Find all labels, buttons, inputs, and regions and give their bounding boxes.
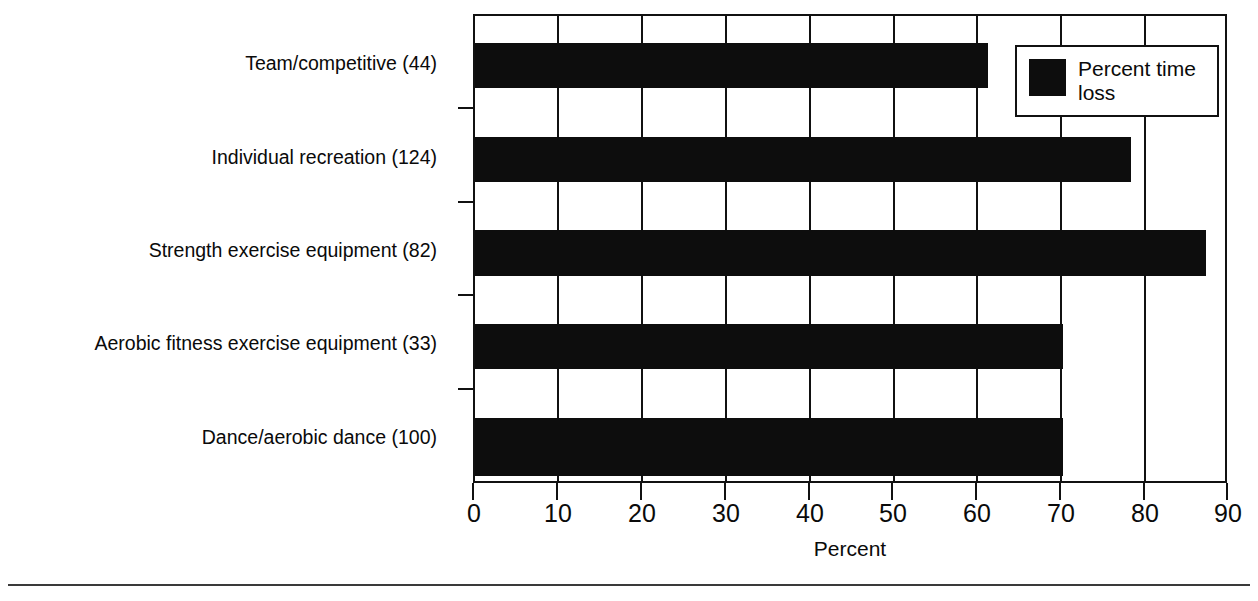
category-label-individual-recreation: Individual recreation (124) [0, 148, 437, 168]
category-label-dance-aerobic-dance: Dance/aerobic dance (100) [0, 428, 437, 448]
x-axis-ticklabel-30: 30 [691, 501, 761, 526]
category-label-aerobic-fitness-equipment: Aerobic fitness exercise equipment (33) [0, 334, 437, 354]
x-axis-ticklabel-60: 60 [942, 501, 1012, 526]
bar-aerobic-fitness-equipment [475, 324, 1063, 369]
x-axis-ticklabel-70: 70 [1026, 501, 1096, 526]
bar-dance-aerobic-dance [475, 418, 1063, 476]
category-label-team-competitive: Team/competitive (44) [0, 54, 437, 74]
category-axis-labels: Team/competitive (44) Individual recreat… [0, 0, 455, 601]
x-axis-tick-80 [1143, 483, 1145, 500]
x-axis-ticklabel-80: 80 [1110, 501, 1180, 526]
x-axis-tick-30 [724, 483, 726, 500]
x-axis-tick-70 [1059, 483, 1061, 500]
legend-label-percent-time-loss: Percent time loss [1078, 57, 1209, 106]
x-axis-tick-90 [1226, 483, 1228, 500]
x-axis-ticklabel-90: 90 [1193, 501, 1258, 526]
x-axis-tick-20 [640, 483, 642, 500]
x-axis-tick-10 [556, 483, 558, 500]
x-axis-tick-0 [472, 483, 474, 500]
bottom-divider [8, 584, 1250, 586]
bar-individual-recreation [475, 137, 1131, 182]
x-axis-title: Percent [473, 538, 1227, 559]
legend-swatch-percent-time-loss [1029, 59, 1066, 96]
bar-strength-exercise-equipment [475, 230, 1206, 276]
bar-team-competitive [475, 43, 988, 88]
x-axis-ticklabel-20: 20 [607, 501, 677, 526]
x-axis-tick-60 [975, 483, 977, 500]
chart-figure: Team/competitive (44) Individual recreat… [0, 0, 1258, 601]
x-axis-ticklabel-50: 50 [858, 501, 928, 526]
x-axis-ticklabel-40: 40 [775, 501, 845, 526]
x-axis-tick-50 [891, 483, 893, 500]
x-axis-tick-40 [808, 483, 810, 500]
x-axis-ticklabel-10: 10 [523, 501, 593, 526]
x-axis-ticklabel-0: 0 [439, 501, 509, 526]
chart-legend: Percent time loss [1015, 45, 1219, 117]
category-label-strength-exercise-equipment: Strength exercise equipment (82) [0, 241, 437, 261]
